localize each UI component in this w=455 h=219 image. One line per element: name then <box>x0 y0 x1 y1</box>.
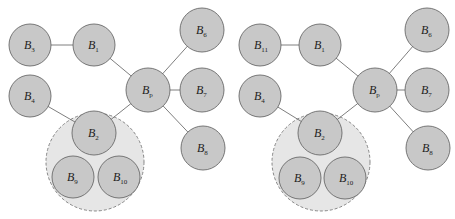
node-B3: B3 <box>9 24 51 66</box>
node-B1: B1 <box>299 24 341 66</box>
node-B8: B8 <box>406 126 450 170</box>
node-B9: B9 <box>279 157 321 199</box>
node-B2: B2 <box>298 111 342 155</box>
node-Bp: Bp <box>126 68 170 112</box>
node-B8: B8 <box>181 126 225 170</box>
node-B2: B2 <box>72 111 116 155</box>
panel-left: B3B1B4BpB6B7B8B2B9B10 <box>9 8 225 211</box>
node-B6: B6 <box>180 8 224 52</box>
node-Bp: Bp <box>353 68 397 112</box>
node-B9: B9 <box>52 156 94 198</box>
node-B7: B7 <box>180 68 224 112</box>
node-B6: B6 <box>405 8 449 52</box>
node-B11: B11 <box>239 24 281 66</box>
node-B7: B7 <box>405 68 449 112</box>
node-B4: B4 <box>9 75 51 117</box>
node-B1: B1 <box>73 24 115 66</box>
panel-right: B11B1B4BpB6B7B8B2B9B10 <box>239 8 450 211</box>
node-B4: B4 <box>239 75 281 117</box>
node-B10: B10 <box>98 156 140 198</box>
block-graph-figure: B3B1B4BpB6B7B8B2B9B10B11B1B4BpB6B7B8B2B9… <box>0 0 455 219</box>
node-B10: B10 <box>324 157 366 199</box>
